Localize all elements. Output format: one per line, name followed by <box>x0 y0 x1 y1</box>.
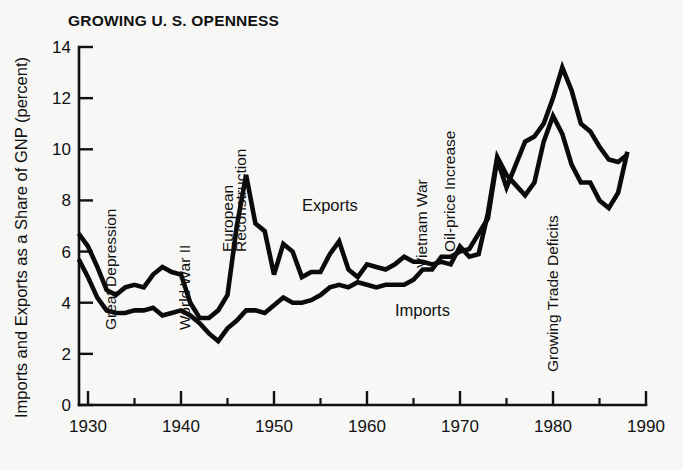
series-label-exports: Exports <box>302 196 358 214</box>
chart-figure: GROWING U. S. OPENNESS Imports and Expor… <box>0 0 683 470</box>
annotation-oil-price-increase: Oil-price Increase <box>441 131 458 252</box>
x-tick-label: 1980 <box>534 417 572 436</box>
chart-title: GROWING U. S. OPENNESS <box>68 12 279 29</box>
y-tick-label: 4 <box>62 294 71 313</box>
annotation-reconstruction: Reconstruction <box>232 149 249 252</box>
y-tick-label: 12 <box>52 89 71 108</box>
x-tick-label: 1930 <box>69 417 107 436</box>
x-tick-label: 1940 <box>162 417 200 436</box>
openness-line-chart: GROWING U. S. OPENNESS Imports and Expor… <box>0 0 683 470</box>
y-tick-label: 0 <box>62 396 71 415</box>
annotation-great-depression: Great Depression <box>102 209 119 330</box>
y-tick-label: 14 <box>52 38 71 57</box>
x-tick-label: 1990 <box>627 417 665 436</box>
x-tick-label: 1970 <box>441 417 479 436</box>
annotation-world-war-ii: World War II <box>176 245 193 330</box>
annotation-vietnam-war: Vietnam War <box>413 179 430 268</box>
y-tick-label: 6 <box>62 243 71 262</box>
y-tick-label: 10 <box>52 140 71 159</box>
y-tick-label: 8 <box>62 191 71 210</box>
series-label-imports: Imports <box>395 301 450 319</box>
y-axis-title: Imports and Exports as a Share of GNP (p… <box>12 57 30 418</box>
x-tick-label: 1960 <box>348 417 386 436</box>
x-tick-label: 1950 <box>255 417 293 436</box>
annotation-growing-trade-deficits: Growing Trade Deficits <box>544 215 561 372</box>
y-tick-label: 2 <box>62 345 71 364</box>
